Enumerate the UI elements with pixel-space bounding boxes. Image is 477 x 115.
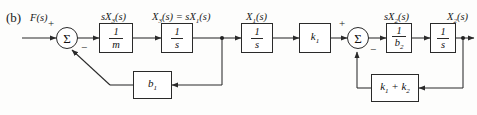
- gain-b1-text: b1: [148, 78, 157, 93]
- block-integrator-3[interactable]: 1s: [430, 23, 456, 53]
- panel-label: (b): [6, 11, 21, 24]
- pickoff-node-x2: [461, 36, 465, 40]
- sigma-symbol: Σ: [354, 31, 362, 44]
- wire-b1-to-sum1: [72, 50, 110, 85]
- sum1-minus-sign: −: [81, 42, 87, 53]
- sum2-plus-sign: +: [339, 18, 345, 29]
- fraction-1-over-s: 1s: [171, 26, 182, 49]
- block-integrator-1[interactable]: 1s: [161, 23, 193, 53]
- block-feedback-b1[interactable]: b1: [133, 71, 172, 99]
- fraction-1-over-m: 1m: [109, 26, 123, 49]
- block-gain-1-over-b2[interactable]: 1b2: [386, 23, 412, 53]
- fraction-1-over-s: 1s: [437, 26, 448, 49]
- block-feedback-k1-plus-k2[interactable]: k1 + k2: [371, 74, 419, 102]
- gain-k1-text: k1: [311, 31, 319, 46]
- block-integrator-2[interactable]: 1s: [241, 23, 273, 53]
- summing-junction-right[interactable]: Σ: [347, 27, 369, 49]
- pickoff-node-x3: [220, 36, 224, 40]
- block-gain-k1[interactable]: k1: [299, 23, 331, 53]
- gain-k1-plus-k2-text: k1 + k2: [380, 81, 410, 96]
- fraction-1-over-b2: 1b2: [392, 25, 407, 51]
- block-gain-1-over-m[interactable]: 1m: [99, 23, 133, 53]
- fraction-1-over-s: 1s: [251, 26, 262, 49]
- summing-junction-left[interactable]: Σ: [56, 27, 78, 49]
- block-diagram-figure: (b) F(s) sX3(s) X3(s) = sX1(s) X1(s) sX2…: [0, 0, 477, 115]
- sigma-symbol: Σ: [63, 31, 71, 44]
- sum2-minus-sign: −: [370, 44, 376, 55]
- input-signal-label: F(s): [30, 13, 48, 24]
- sum1-plus-sign: +: [48, 18, 54, 29]
